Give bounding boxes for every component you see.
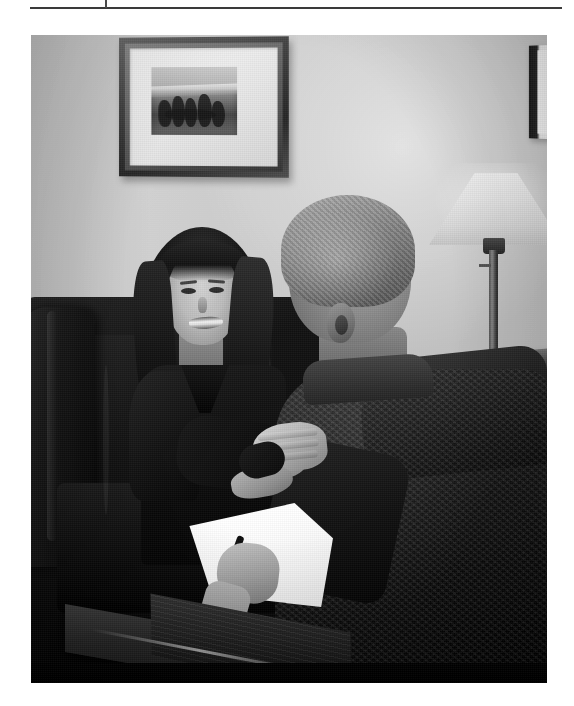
lamp-switch	[479, 264, 491, 267]
interviewee-fringe	[161, 241, 245, 281]
header-separator-rule	[30, 7, 562, 9]
foreground-shadow	[31, 663, 547, 683]
partial-frame-mat	[537, 49, 547, 134]
interviewer-collar	[302, 353, 435, 406]
interviewer-hair-texture	[281, 195, 415, 307]
interviewee-nose	[198, 297, 207, 313]
interviewer-ear-inner	[335, 315, 348, 335]
framed-artwork	[119, 36, 289, 177]
artwork-image	[151, 67, 237, 135]
interviewee-eye	[209, 287, 224, 293]
leather-sofa-highlight	[47, 311, 57, 541]
header-tick-mark	[105, 0, 107, 8]
partial-picture-frame	[529, 44, 547, 140]
interviewee-eye	[181, 288, 196, 294]
scene-photograph	[31, 35, 547, 683]
artwork-brushstroke	[165, 109, 216, 120]
document-page: Black and white photograph of a job inte…	[0, 0, 574, 706]
leather-crease	[103, 365, 109, 515]
